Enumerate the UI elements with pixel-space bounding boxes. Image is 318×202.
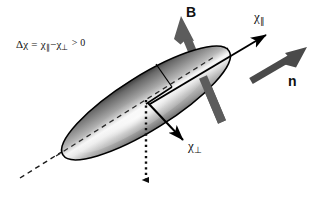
chi-perpendicular-label: χ⊥: [188, 139, 202, 155]
formula-perp-subscript: ⊥: [61, 43, 68, 52]
figure-root: Δχ = χ∥−χ⊥> 0 B n χ∥ χ⊥: [0, 0, 318, 202]
anisotropy-formula: Δχ = χ∥−χ⊥> 0: [16, 38, 85, 52]
formula-equals: =: [31, 38, 37, 50]
chi-parallel-subscript: ∥: [260, 16, 265, 26]
formula-comparison: > 0: [72, 37, 86, 48]
formula-delta-chi: Δχ: [16, 38, 28, 50]
magnetic-field-label: B: [186, 5, 196, 19]
director-arrow: [251, 47, 307, 81]
chi-parallel-label: χ∥: [254, 10, 265, 26]
diagram-canvas: [0, 0, 318, 202]
chi-perp-subscript: ⊥: [194, 145, 202, 155]
director-label: n: [288, 74, 297, 88]
